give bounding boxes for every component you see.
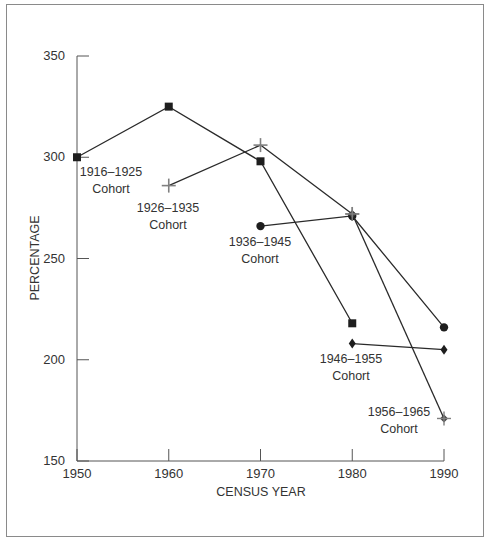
cohort-label-1936-1945: 1936–1945 Cohort [229,235,292,266]
x-tick-label: 1980 [338,466,367,481]
diamond-plus-marker-icon [345,207,359,221]
cohort-label-range: 1946–1955 [320,352,383,366]
x-tick-label: 1960 [154,466,183,481]
y-tick-label: 300 [43,149,65,164]
circle-marker-icon [256,222,264,230]
cohort-label-1926-1935: 1926–1935 Cohort [137,201,200,232]
square-marker-icon [348,319,356,327]
x-tick-label: 1950 [63,466,92,481]
series-line [352,214,444,419]
x-axis-title: CENSUS YEAR [216,485,305,499]
y-tick-label: 250 [43,251,65,266]
series-line [261,216,445,327]
cohort-label-word: Cohort [92,182,130,196]
cohort-label-range: 1936–1945 [229,235,292,249]
square-marker-icon [165,103,173,111]
line-chart: 15020025030035019501960197019801990 CENS… [0,0,490,546]
plus-marker-icon [254,138,268,152]
cohort-label-word: Cohort [149,218,187,232]
diamond-marker-icon [441,345,448,355]
cohort-label-1956-1965: 1956–1965 Cohort [368,405,431,436]
x-tick-label: 1970 [246,466,275,481]
diamond-marker-icon [349,339,356,349]
circle-marker-icon [440,323,448,331]
series-1936-1945-cohort [256,212,448,332]
series-line [77,107,352,324]
cohort-label-1946-1955: 1946–1955 Cohort [320,352,383,383]
cohort-label-1916-1925: 1916–1925 Cohort [80,165,143,196]
cohort-label-word: Cohort [241,252,279,266]
square-marker-icon [257,157,265,165]
series-1916-1925-cohort [73,103,356,328]
cohort-label-word: Cohort [332,369,370,383]
y-axis-title: PERCENTAGE [28,215,42,300]
x-tick-label: 1990 [430,466,459,481]
cohort-label-word: Cohort [380,422,418,436]
plus-marker-icon [162,179,176,193]
square-marker-icon [73,153,81,161]
cohort-label-range: 1916–1925 [80,165,143,179]
cohort-label-range: 1956–1965 [368,405,431,419]
cohort-label-range: 1926–1935 [137,201,200,215]
y-tick-label: 350 [43,48,65,63]
series-line [352,344,444,350]
diamond-plus-marker-icon [437,411,451,425]
y-tick-label: 200 [43,352,65,367]
